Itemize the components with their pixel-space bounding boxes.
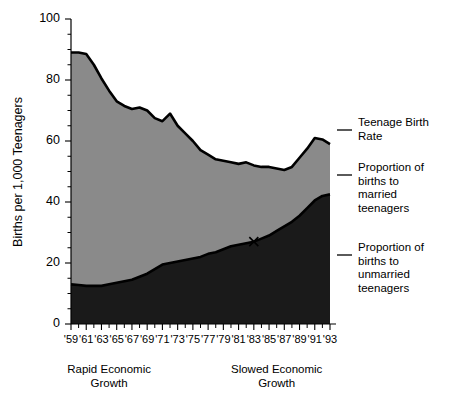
- x-tick-label: '71: [155, 333, 169, 345]
- x-axis-ticks: [71, 324, 330, 330]
- rapid-growth-label: Growth: [91, 377, 128, 389]
- legend-unmarried-label: Proportion of: [358, 241, 425, 253]
- x-tick-label: '93: [323, 333, 337, 345]
- slowed-growth: Slowed EconomicGrowth: [231, 363, 323, 389]
- legend-married-label: teenagers: [358, 202, 409, 214]
- x-tick-label: '63: [94, 333, 108, 345]
- legend-married: Proportion ofbirths tomarriedteenagers: [337, 161, 425, 214]
- slowed-growth-label: Growth: [258, 377, 295, 389]
- legend-total: Teenage BirthRate: [337, 116, 429, 142]
- teen-birth-rate-chart: 020406080100 '59'61'63'65'67'69'71'73'75…: [0, 0, 449, 408]
- y-tick-label: 60: [46, 133, 60, 147]
- legend-total-label: Rate: [358, 130, 382, 142]
- x-tick-label: '59: [64, 333, 78, 345]
- chart-annotations: Rapid EconomicGrowthSlowed EconomicGrowt…: [67, 363, 322, 389]
- x-tick-label: '85: [262, 333, 276, 345]
- x-tick-label: '89: [292, 333, 306, 345]
- legend-unmarried: Proportion ofbirths tounmarriedteenagers: [337, 241, 425, 294]
- x-tick-label: '69: [140, 333, 154, 345]
- rapid-growth-label: Rapid Economic: [67, 363, 151, 375]
- legend-total-label: Teenage Birth: [358, 116, 429, 128]
- x-tick-label: '67: [125, 333, 139, 345]
- legend-married-label: married: [358, 188, 397, 200]
- x-tick-label: '81: [231, 333, 245, 345]
- x-tick-label: '75: [186, 333, 200, 345]
- x-tick-label: '87: [277, 333, 291, 345]
- y-tick-label: 0: [53, 316, 60, 330]
- y-tick-label: 100: [39, 11, 60, 25]
- legend-unmarried-label: unmarried: [358, 268, 410, 280]
- x-tick-label: '79: [216, 333, 230, 345]
- chart-legend: Teenage BirthRateProportion ofbirths tom…: [337, 116, 429, 294]
- y-axis-title: Births per 1,000 Teenagers: [11, 97, 25, 247]
- chart-canvas: 020406080100 '59'61'63'65'67'69'71'73'75…: [0, 0, 449, 408]
- x-tick-label: '61: [79, 333, 93, 345]
- x-tick-label: '65: [110, 333, 124, 345]
- x-tick-label: '73: [170, 333, 184, 345]
- legend-married-label: Proportion of: [358, 161, 425, 173]
- x-axis-tick-labels: '59'61'63'65'67'69'71'73'75'77'79'81'83'…: [64, 333, 337, 345]
- plot-areas: [71, 53, 330, 324]
- y-axis-ticks: [65, 19, 71, 324]
- legend-married-label: births to: [358, 175, 399, 187]
- y-tick-label: 40: [46, 194, 60, 208]
- legend-unmarried-label: teenagers: [358, 282, 409, 294]
- rapid-growth: Rapid EconomicGrowth: [67, 363, 151, 389]
- x-tick-label: '77: [201, 333, 215, 345]
- x-tick-label: '91: [308, 333, 322, 345]
- y-tick-label: 20: [46, 255, 60, 269]
- x-tick-label: '83: [247, 333, 261, 345]
- slowed-growth-label: Slowed Economic: [231, 363, 323, 375]
- legend-unmarried-label: births to: [358, 255, 399, 267]
- y-axis-tick-labels: 020406080100: [39, 11, 60, 330]
- y-tick-label: 80: [46, 72, 60, 86]
